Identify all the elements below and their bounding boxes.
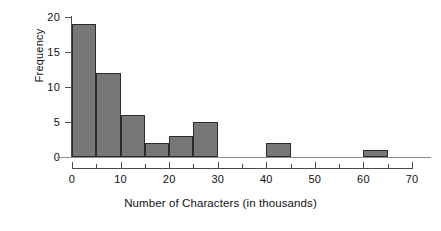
x-axis-tick-label: 20 <box>154 173 184 185</box>
x-axis-minor-tick <box>96 164 97 169</box>
y-axis-tick <box>65 17 71 18</box>
x-axis-tick <box>169 162 170 169</box>
histogram-bar <box>96 73 120 157</box>
histogram-bar <box>266 143 290 157</box>
x-axis-tick <box>218 162 219 169</box>
y-axis-tick-label: 5 <box>28 117 60 128</box>
y-axis-title: Frequency <box>34 11 45 101</box>
histogram-bar <box>145 143 169 157</box>
histogram-bar <box>72 24 96 157</box>
x-axis-minor-tick <box>339 164 340 169</box>
x-axis-tick-label: 10 <box>106 173 136 185</box>
x-axis-minor-tick <box>145 164 146 169</box>
histogram-bar <box>169 136 193 157</box>
x-axis-title: Number of Characters (in thousands) <box>0 197 441 210</box>
histogram-bar <box>193 122 217 157</box>
x-axis-tick-label: 50 <box>300 173 330 185</box>
x-axis-minor-tick <box>193 164 194 169</box>
x-axis-tick-label: 70 <box>397 173 427 185</box>
histogram-bar <box>363 150 387 157</box>
x-axis-tick-label: 60 <box>348 173 378 185</box>
x-axis-tick-label: 40 <box>251 173 281 185</box>
histogram-bar <box>121 115 145 157</box>
x-axis-tick-label: 0 <box>57 173 87 185</box>
x-axis-tick <box>363 162 364 169</box>
y-axis-tick <box>65 122 71 123</box>
x-axis-tick <box>72 162 73 169</box>
x-axis-minor-tick <box>242 164 243 169</box>
x-axis-minor-tick <box>291 164 292 169</box>
y-axis-tick <box>65 52 71 53</box>
x-axis-tick <box>266 162 267 169</box>
x-axis-tick <box>412 162 413 169</box>
plot-area <box>72 17 412 157</box>
y-axis-tick-label: 0 <box>28 152 60 163</box>
x-axis-minor-tick <box>388 164 389 169</box>
x-axis-tick <box>315 162 316 169</box>
x-axis-baseline <box>57 157 431 158</box>
x-axis-tick <box>121 162 122 169</box>
histogram-figure: 05101520 Frequency 010203040506070 Numbe… <box>0 0 441 231</box>
x-axis-tick-label: 30 <box>203 173 233 185</box>
y-axis-tick <box>65 87 71 88</box>
